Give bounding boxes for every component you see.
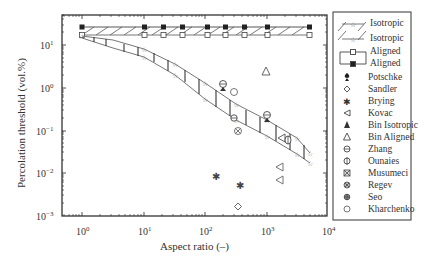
svg-text:103: 103 — [261, 225, 275, 237]
svg-text:☆: ☆ — [350, 21, 356, 29]
legend-label-potschke: Potschke — [368, 72, 402, 82]
svg-text:104: 104 — [322, 225, 336, 237]
legend-label-kharchenko: Kharchenko — [368, 204, 415, 214]
legend-label-bin-aligned: Bin Aligned — [368, 132, 414, 142]
marker-brying: ✱ — [212, 171, 220, 182]
legend-label-bin-isotropic: Bin Isotropic — [368, 120, 418, 130]
svg-text:☆: ☆ — [350, 36, 356, 44]
legend-label-isotropic-2: Isotropic — [370, 33, 404, 43]
marker-kharchenko — [231, 89, 238, 96]
svg-text:100: 100 — [76, 225, 90, 237]
legend-label-kovac: Kovac — [368, 108, 393, 118]
y-axis-title: Percolation threshold (vol.%) — [15, 58, 28, 188]
svg-text:☆: ☆ — [307, 160, 313, 168]
legend-label-musumeci: Musumeci — [368, 168, 408, 178]
chart: 100 101 102 103 104 101 100 10−1 10−2 10… — [0, 0, 429, 263]
legend-label-isotropic: Isotropic — [370, 18, 404, 28]
legend-seo-icon — [344, 194, 350, 200]
y-tick-labels: 101 100 10−1 10−2 10−3 — [36, 39, 54, 222]
legend-label-regev: Regev — [368, 180, 393, 190]
legend-label-sandler: Sandler — [368, 84, 398, 94]
x-tick-labels: 100 101 102 103 104 — [76, 225, 336, 237]
legend-zhang-icon — [344, 146, 350, 152]
svg-text:☆: ☆ — [141, 46, 147, 54]
marker-brying-2: ✱ — [236, 180, 244, 191]
legend-musumeci-icon — [344, 170, 350, 176]
plot-frame — [62, 15, 327, 216]
legend-brying-icon: ✱ — [343, 97, 351, 107]
svg-text:101: 101 — [40, 39, 54, 51]
svg-text:100: 100 — [40, 82, 54, 94]
svg-text:10−1: 10−1 — [36, 125, 54, 137]
svg-text:☆: ☆ — [141, 54, 147, 62]
svg-text:☆: ☆ — [79, 33, 85, 41]
svg-text:☆: ☆ — [202, 80, 208, 88]
svg-text:☆: ☆ — [202, 96, 208, 104]
svg-text:☆: ☆ — [294, 135, 300, 143]
legend-label-zhang: Zhang — [368, 144, 393, 154]
svg-text:☆: ☆ — [233, 101, 239, 109]
svg-text:101: 101 — [138, 225, 152, 237]
svg-text:10−3: 10−3 — [36, 210, 54, 222]
legend-label-seo: Seo — [368, 192, 383, 202]
svg-text:☆: ☆ — [307, 150, 313, 158]
svg-text:☆: ☆ — [172, 72, 178, 80]
svg-text:☆: ☆ — [172, 61, 178, 69]
legend-regev-icon — [344, 182, 350, 188]
svg-text:10−2: 10−2 — [36, 167, 54, 179]
legend: ☆ ☆ Isotropic Isotropic Aligned Aligned … — [333, 12, 418, 220]
legend-label-brying: Brying — [368, 96, 395, 106]
legend-kharchenko-icon — [344, 206, 350, 212]
legend-label-aligned: Aligned — [370, 46, 401, 56]
x-axis-title: Aspect ratio (–) — [160, 240, 229, 253]
svg-text:☆: ☆ — [294, 151, 300, 159]
legend-label-aligned-2: Aligned — [370, 58, 401, 68]
svg-text:☆: ☆ — [264, 133, 270, 141]
legend-label-ounaies: Ounaies — [368, 156, 399, 166]
svg-text:102: 102 — [199, 225, 213, 237]
